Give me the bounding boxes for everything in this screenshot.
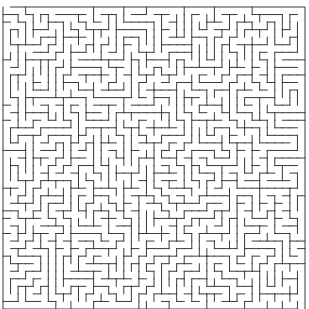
maze-wall-path	[3, 7, 305, 309]
maze-board	[0, 0, 309, 309]
maze-walls	[0, 0, 309, 309]
